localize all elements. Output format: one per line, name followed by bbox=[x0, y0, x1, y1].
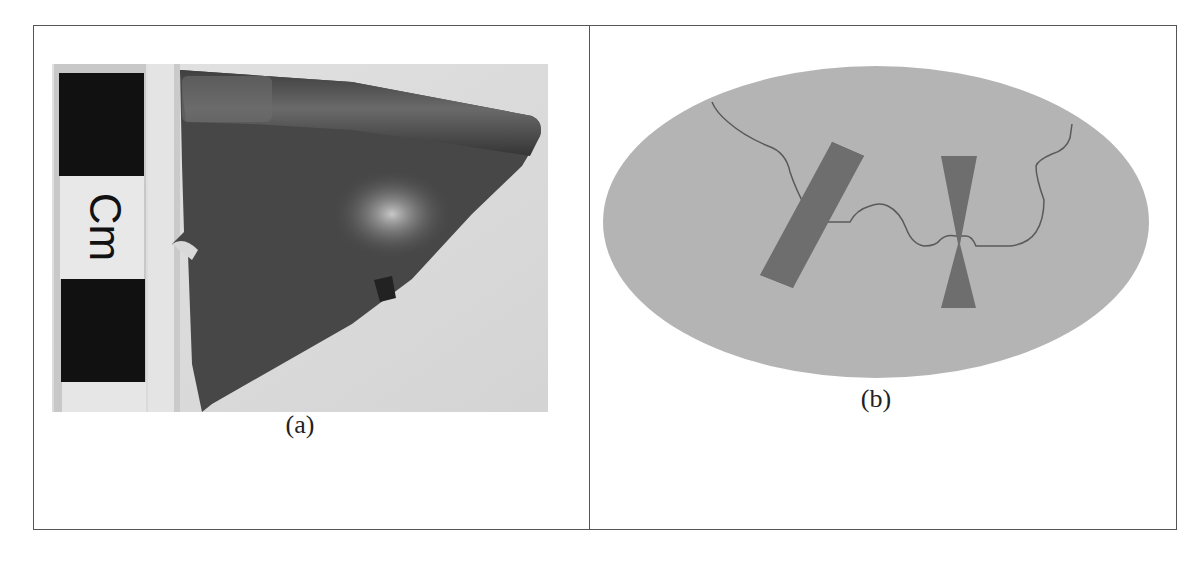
caption-b: (b) bbox=[816, 384, 936, 414]
clamp-repair-diagram bbox=[590, 60, 1177, 390]
vessel-ellipse bbox=[603, 66, 1149, 378]
scale-label: Cm bbox=[81, 193, 130, 261]
panel-b-schematic bbox=[590, 60, 1177, 390]
sherd-photo-illustration: Cm bbox=[52, 64, 548, 412]
scale-bar: Cm bbox=[54, 64, 146, 412]
caption-a: (a) bbox=[240, 410, 360, 440]
panel-a-photo: Cm bbox=[52, 64, 548, 412]
